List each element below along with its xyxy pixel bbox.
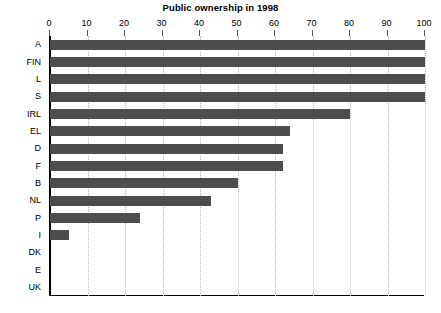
y-category-label-b: B <box>0 178 45 189</box>
y-category-label-dk: DK <box>0 247 45 258</box>
bar-series <box>50 36 425 296</box>
y-category-label-p: P <box>0 213 45 224</box>
bar-f <box>50 161 283 171</box>
y-category-label-l: L <box>0 74 45 85</box>
y-category-label-fin: FIN <box>0 57 45 68</box>
bar-fin <box>50 57 425 67</box>
bar-el <box>50 126 290 136</box>
bar-l <box>50 74 425 84</box>
bar-irl <box>50 109 350 119</box>
y-category-label-e: E <box>0 265 45 276</box>
gridline-100 <box>425 36 426 296</box>
x-tick-label-10: 10 <box>67 18 107 28</box>
bar-nl <box>50 196 211 206</box>
x-tick-label-70: 70 <box>292 18 332 28</box>
x-tick-label-80: 80 <box>329 18 369 28</box>
y-category-label-el: EL <box>0 126 45 137</box>
x-tick-label-90: 90 <box>367 18 407 28</box>
y-category-label-s: S <box>0 91 45 102</box>
plot-area <box>49 36 424 296</box>
y-category-label-i: I <box>0 230 45 241</box>
y-category-label-a: A <box>0 39 45 50</box>
x-tick-label-20: 20 <box>104 18 144 28</box>
y-category-label-irl: IRL <box>0 109 45 120</box>
bar-chart: Public ownership in 1998 010203040506070… <box>0 0 441 313</box>
y-axis-category-labels: AFINLSIRLELDFBNLPIDKEUK <box>0 36 45 296</box>
x-tick-label-100: 100 <box>404 18 441 28</box>
bar-b <box>50 178 238 188</box>
bar-s <box>50 92 425 102</box>
chart-title: Public ownership in 1998 <box>0 2 441 13</box>
x-tick-label-0: 0 <box>29 18 69 28</box>
x-tick-label-30: 30 <box>142 18 182 28</box>
x-tick-label-50: 50 <box>217 18 257 28</box>
x-axis-tick-labels: 0102030405060708090100 <box>0 18 441 30</box>
y-category-label-uk: UK <box>0 282 45 293</box>
bar-p <box>50 213 140 223</box>
y-category-label-nl: NL <box>0 195 45 206</box>
bar-a <box>50 40 425 50</box>
y-category-label-f: F <box>0 161 45 172</box>
x-tick-label-40: 40 <box>179 18 219 28</box>
bar-i <box>50 230 69 240</box>
bar-d <box>50 144 283 154</box>
y-category-label-d: D <box>0 143 45 154</box>
x-tick-label-60: 60 <box>254 18 294 28</box>
